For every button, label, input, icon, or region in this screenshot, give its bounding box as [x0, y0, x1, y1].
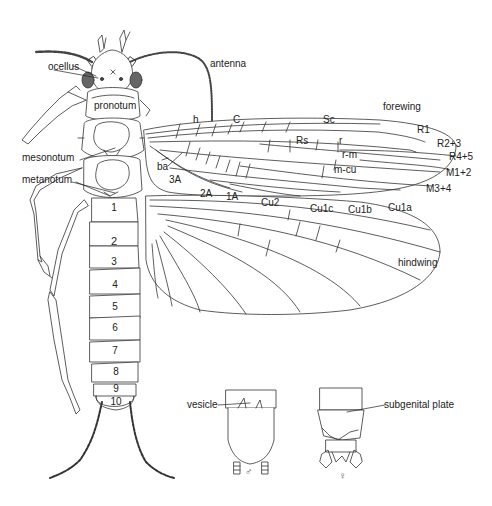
vein-2a-label: 2A [200, 189, 212, 199]
subgenital-plate-label: subgenital plate [384, 400, 454, 410]
vein-ba-label: ba [157, 162, 168, 172]
vein-r-label: r [339, 136, 342, 146]
vein-m-cu-label: m-cu [334, 165, 356, 175]
vesicle-label: vesicle [187, 400, 218, 410]
abdominal-segment-10: 10 [106, 397, 126, 407]
vein-3a-label: 3A [169, 175, 181, 185]
female-symbol: ♀ [339, 471, 347, 481]
male-terminalia [226, 390, 276, 474]
abdominal-segment-3: 3 [104, 257, 124, 267]
ocellus-label: ocellus [48, 62, 79, 72]
metanotum-label: metanotum [22, 175, 72, 185]
vein-cu1c-label: Cu1c [310, 204, 333, 214]
vein-r-m-label: r-m [342, 150, 357, 160]
forewing-outline [144, 118, 456, 196]
forewing-label: forewing [383, 102, 421, 112]
hindwing-outline [146, 195, 440, 314]
stonefly-diagram: ocellus antenna pronotum mesonotum metan… [0, 0, 492, 506]
abdominal-segment-7: 7 [105, 346, 125, 356]
insect-illustration [0, 0, 492, 506]
abdominal-segment-2: 2 [104, 236, 124, 247]
vein-rs-label: Rs [296, 136, 308, 146]
vein-r1-label: R1 [417, 125, 430, 135]
vein-m3-4-label: M3+4 [426, 184, 451, 194]
vein-cu2-label: Cu2 [261, 198, 279, 208]
vein-1a-label: 1A [226, 192, 238, 202]
mesonotum-label: mesonotum [22, 153, 74, 163]
abdominal-segment-5: 5 [105, 302, 125, 312]
female-terminalia [318, 388, 364, 468]
abdominal-segment-6: 6 [105, 323, 125, 333]
abdominal-segment-1: 1 [104, 203, 124, 213]
vein-h-label: h [193, 115, 199, 125]
vein-r4-5-label: R4+5 [449, 152, 473, 162]
vein-r2-3-label: R2+3 [437, 139, 461, 149]
vein-m1-2-label: M1+2 [446, 168, 471, 178]
antenna-label: antenna [210, 59, 246, 69]
vein-cu1b-label: Cu1b [348, 205, 372, 215]
abdominal-segment-8: 8 [106, 367, 126, 377]
abdominal-segment-9: 9 [106, 384, 126, 394]
vein-c-label: C [233, 115, 240, 125]
hindwing-label: hindwing [398, 258, 437, 268]
antenna-right [130, 52, 212, 125]
vein-sc-label: Sc [323, 115, 335, 125]
vein-cu1a-label: Cu1a [388, 203, 412, 213]
abdominal-segment-4: 4 [105, 280, 125, 290]
pronotum-label: pronotum [94, 101, 136, 111]
male-symbol: ♂ [245, 467, 253, 477]
